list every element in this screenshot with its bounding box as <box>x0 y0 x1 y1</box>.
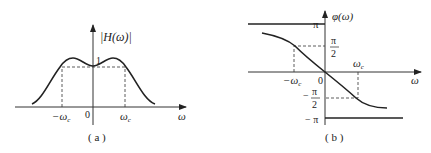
pos-wc-label: ωc <box>120 110 132 124</box>
neg-half-pi-num: π <box>312 86 317 97</box>
y-axis-label: |H(ω)| <box>100 30 132 44</box>
y-axis-label: φ(ω) <box>332 10 354 23</box>
caption-b: ( b ) <box>325 131 344 144</box>
neg-half-pi-den: 2 <box>312 99 317 110</box>
neg-wc-label: −ωc <box>283 74 302 88</box>
unity-label: 1 <box>96 55 101 66</box>
origin-label: 0 <box>318 75 323 86</box>
origin-label: 0 <box>85 109 90 120</box>
pi-label: π <box>313 18 319 30</box>
x-axis-label: ω <box>178 110 186 122</box>
half-pi-den: 2 <box>331 48 336 59</box>
caption-a: ( a ) <box>88 131 106 144</box>
half-pi-num: π <box>331 35 336 46</box>
neg-wc-label: −ωc <box>52 110 71 124</box>
pos-wc-label: ωc <box>353 57 365 71</box>
magnitude-panel: |H(ω)| 1 0 −ωc ωc ω ( a ) <box>15 25 186 144</box>
neg-sign: − <box>303 90 309 101</box>
phase-panel: φ(ω) π π 2 − π 2 − π 0 −ωc ωc ω ( b ) <box>248 10 421 144</box>
neg-pi-label: − π <box>305 114 318 125</box>
figure: |H(ω)| 1 0 −ωc ωc ω ( a ) φ(ω) π π 2 − π… <box>0 0 431 153</box>
x-axis-label: ω <box>411 74 419 86</box>
